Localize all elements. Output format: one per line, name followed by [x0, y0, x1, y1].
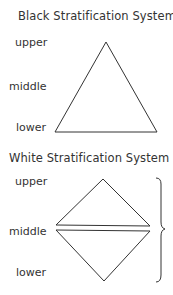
- white-system-brace: [156, 178, 165, 282]
- diagram-canvas: [0, 0, 173, 295]
- white-lower-triangle: [56, 230, 150, 281]
- white-upper-triangle: [56, 179, 150, 226]
- black-pyramid-triangle: [55, 42, 157, 132]
